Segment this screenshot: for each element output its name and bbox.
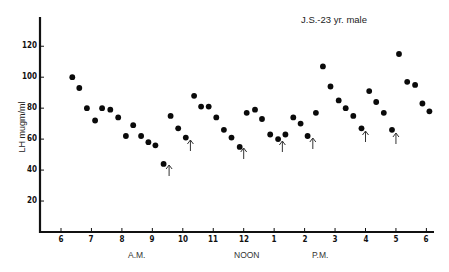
data-point (328, 84, 334, 90)
data-point (259, 116, 265, 122)
data-point (373, 99, 379, 105)
data-point (213, 115, 219, 121)
data-point (404, 79, 410, 85)
x-tick-label: 9 (144, 234, 160, 244)
x-tick-label: 1 (266, 234, 282, 244)
data-point (396, 51, 402, 57)
arrow-up-icon (166, 165, 172, 176)
x-tick-label: 8 (114, 234, 130, 244)
y-tick-label: 40 (18, 164, 37, 174)
data-point (298, 121, 304, 127)
data-point (229, 135, 235, 141)
data-point (84, 105, 90, 111)
x-period-label: NOON (234, 250, 260, 260)
data-point (313, 110, 319, 116)
x-tick-label: 12 (236, 234, 252, 244)
data-point (244, 110, 250, 116)
x-tick-label: 5 (388, 234, 404, 244)
y-tick-label: 100 (18, 71, 37, 81)
data-point (92, 118, 98, 124)
data-point (381, 110, 387, 116)
y-tick-label: 60 (18, 133, 37, 143)
chart-title: J.S.-23 yr. male (301, 14, 367, 25)
data-point (99, 105, 105, 111)
x-tick-label: 2 (297, 234, 313, 244)
data-point (198, 104, 204, 110)
data-point (290, 115, 296, 121)
arrow-up-icon (187, 140, 193, 151)
data-point (183, 135, 189, 141)
x-tick-label: 6 (53, 234, 69, 244)
chart-axes (39, 17, 434, 233)
data-point (283, 132, 289, 138)
x-tick-label: 10 (175, 234, 191, 244)
data-point (359, 125, 365, 131)
data-point (115, 115, 121, 121)
data-point (161, 161, 167, 167)
y-tick-label: 120 (18, 40, 37, 50)
data-point (221, 127, 227, 133)
data-point (412, 82, 418, 88)
data-points (69, 51, 432, 167)
x-period-label: P.M. (312, 250, 328, 260)
x-tick-label: 3 (327, 234, 343, 244)
data-point (76, 85, 82, 91)
data-point (350, 113, 356, 119)
data-point (275, 136, 281, 142)
data-point (366, 88, 372, 94)
data-point (107, 107, 113, 113)
data-point (123, 133, 129, 139)
data-point (336, 98, 342, 104)
data-point (168, 113, 174, 119)
x-period-label: A.M. (128, 250, 145, 260)
data-point (320, 64, 326, 70)
lh-scatter-chart (0, 0, 449, 272)
data-point (420, 101, 426, 107)
x-tick-label: 7 (83, 234, 99, 244)
data-point (427, 108, 433, 114)
annotation-arrows (166, 131, 399, 176)
data-point (343, 105, 349, 111)
y-tick-label: 20 (18, 195, 37, 205)
data-point (130, 122, 136, 128)
data-point (237, 144, 243, 150)
data-point (146, 139, 152, 145)
x-tick-label: 6 (418, 234, 434, 244)
arrow-up-icon (393, 133, 399, 144)
data-point (267, 132, 273, 138)
data-point (138, 133, 144, 139)
data-point (389, 127, 395, 133)
data-point (69, 74, 75, 80)
arrow-up-icon (310, 138, 316, 149)
data-point (305, 133, 311, 139)
data-point (153, 142, 159, 148)
arrow-up-icon (279, 141, 285, 152)
data-point (191, 93, 197, 99)
x-tick-label: 11 (205, 234, 221, 244)
arrow-up-icon (363, 131, 369, 142)
x-tick-label: 4 (358, 234, 374, 244)
y-tick-label: 80 (18, 102, 37, 112)
data-point (206, 104, 212, 110)
data-point (252, 107, 258, 113)
arrow-up-icon (241, 148, 247, 159)
data-point (175, 125, 181, 131)
